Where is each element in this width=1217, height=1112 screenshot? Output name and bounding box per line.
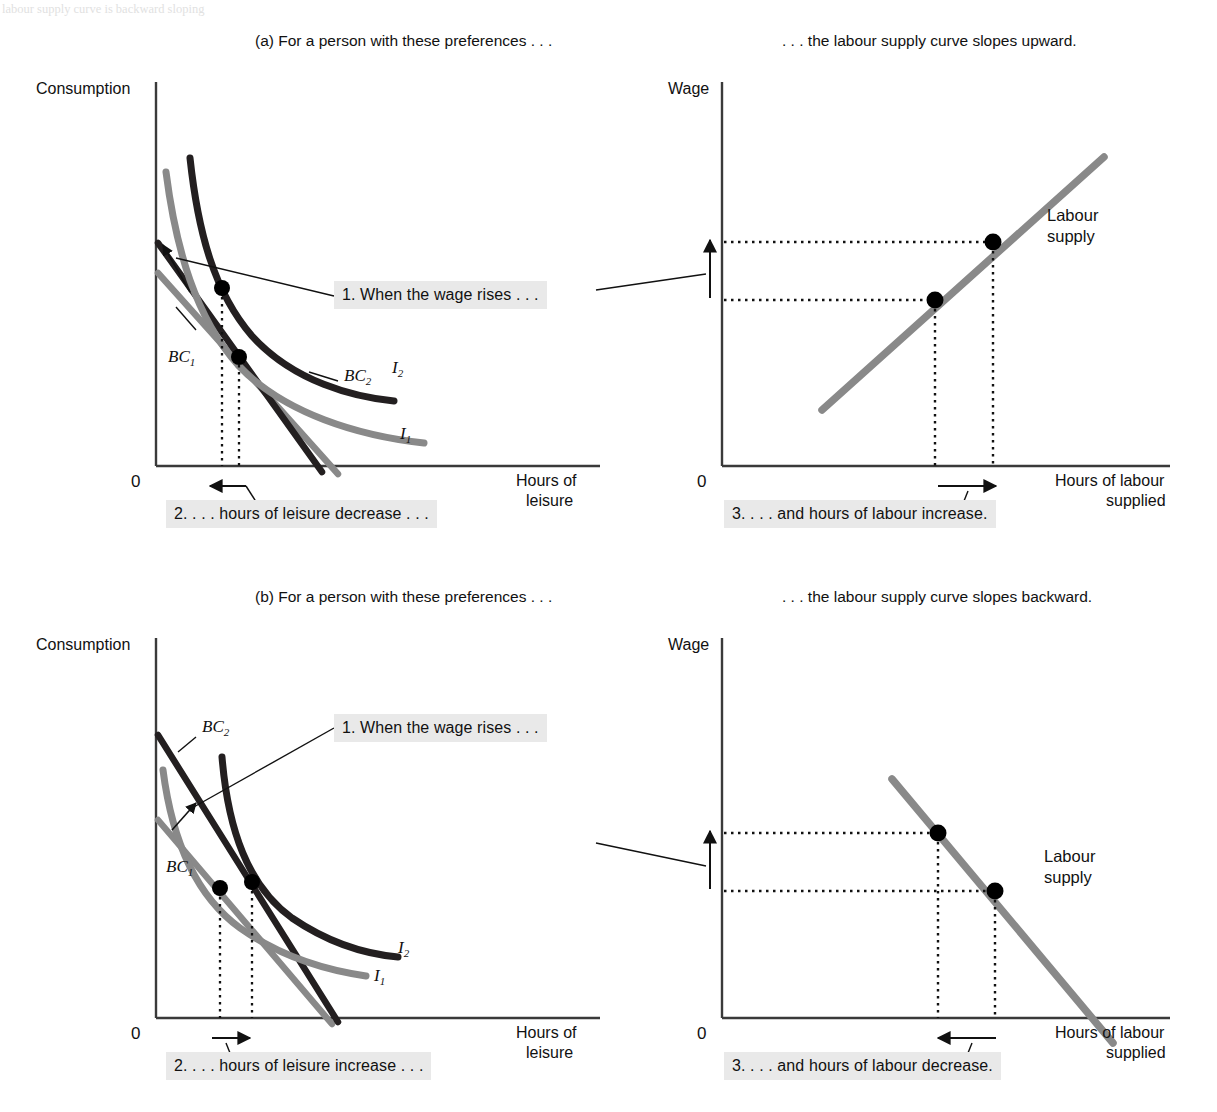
panel-b-bc1-label: BC1 bbox=[166, 857, 193, 879]
i2-subscript: 2 bbox=[398, 367, 404, 379]
panel-a-right-x-axis-label-line1: Hours of labour bbox=[1055, 472, 1164, 490]
bc2-text: BC bbox=[202, 717, 224, 736]
callout-1-right-leader-line bbox=[596, 274, 706, 290]
optimum-point-new bbox=[244, 874, 260, 890]
panel-a-right-y-axis-label: Wage bbox=[668, 80, 709, 98]
panel-a-left-x-axis-label-line2: leisure bbox=[526, 492, 573, 510]
panel-a-right-chart bbox=[596, 82, 1170, 511]
panel-a-callout-1: 1. When the wage rises . . . bbox=[334, 281, 547, 309]
panel-b-callout-1: 1. When the wage rises . . . bbox=[334, 714, 547, 742]
panel-a-right-x-axis-label-line2: supplied bbox=[1106, 492, 1166, 510]
panel-a-right-origin-label: 0 bbox=[697, 472, 706, 492]
panel-b-left-x-axis-label-line1: Hours of bbox=[516, 1024, 576, 1042]
panel-a-i1-label: I1 bbox=[400, 424, 411, 446]
panel-b-right-y-axis-label: Wage bbox=[668, 636, 709, 654]
panel-b-left-y-axis-label: Consumption bbox=[36, 636, 130, 654]
panel-b-bc2-label: BC2 bbox=[202, 717, 229, 739]
panel-a-i2-label: I2 bbox=[392, 358, 403, 380]
bc1-text: BC bbox=[168, 347, 190, 366]
bc2-text: BC bbox=[344, 366, 366, 385]
panel-b-labour-supply-label-line2: supply bbox=[1044, 867, 1092, 888]
panel-a-bc2-label: BC2 bbox=[344, 366, 371, 388]
i1-subscript: 1 bbox=[406, 433, 412, 445]
panel-b-callout-2: 2. . . . hours of leisure increase . . . bbox=[166, 1052, 431, 1080]
figure-canvas: labour supply curve is backward sloping bbox=[0, 0, 1217, 1112]
panel-b-callout-3: 3. . . . and hours of labour decrease. bbox=[724, 1052, 1001, 1080]
panel-b-left-chart bbox=[156, 638, 600, 1063]
indifference-curve-2 bbox=[190, 158, 394, 401]
panel-b-right-x-axis-label-line1: Hours of labour bbox=[1055, 1024, 1164, 1042]
i1-subscript: 1 bbox=[380, 975, 386, 987]
labour-supply-curve bbox=[892, 779, 1113, 1043]
bc2-subscript: 2 bbox=[366, 375, 372, 387]
panel-a-left-x-axis-label-line1: Hours of bbox=[516, 472, 576, 490]
bc1-text: BC bbox=[166, 857, 188, 876]
panel-b-right-x-axis-label-line2: supplied bbox=[1106, 1044, 1166, 1062]
panel-a-left-origin-label: 0 bbox=[131, 472, 140, 492]
supply-point-high-wage bbox=[930, 825, 947, 842]
optimum-point-initial bbox=[212, 880, 228, 896]
graphics-layer bbox=[0, 0, 1217, 1112]
panel-b-i1-label: I1 bbox=[374, 966, 385, 988]
i2-subscript: 2 bbox=[404, 947, 410, 959]
labour-supply-curve bbox=[822, 157, 1104, 410]
panel-a-left-y-axis-label: Consumption bbox=[36, 80, 130, 98]
supply-point-low bbox=[927, 292, 944, 309]
bc2-subscript: 2 bbox=[224, 726, 230, 738]
bc2-leader-line bbox=[178, 737, 196, 752]
panel-b-right-origin-label: 0 bbox=[697, 1024, 706, 1044]
panel-a-bc1-label: BC1 bbox=[168, 347, 195, 369]
callout-1-right-leader-line bbox=[596, 843, 706, 866]
supply-point-high bbox=[985, 234, 1002, 251]
panel-b-i2-label: I2 bbox=[398, 938, 409, 960]
panel-a-callout-2: 2. . . . hours of leisure decrease . . . bbox=[166, 500, 437, 528]
optimum-point-new bbox=[214, 280, 230, 296]
panel-b-left-origin-label: 0 bbox=[131, 1024, 140, 1044]
callout-1-leader-line bbox=[192, 728, 334, 808]
panel-a-caption-right: . . . the labour supply curve slopes upw… bbox=[782, 32, 1077, 50]
panel-b-caption-right: . . . the labour supply curve slopes bac… bbox=[782, 588, 1092, 606]
callout-1-leader-line bbox=[176, 258, 334, 296]
panel-b-caption-left: (b) For a person with these preferences … bbox=[255, 588, 552, 606]
bc1-subscript: 1 bbox=[190, 356, 196, 368]
panel-b-labour-supply-label-line1: Labour bbox=[1044, 846, 1095, 867]
panel-a-labour-supply-label-line1: Labour bbox=[1047, 205, 1098, 226]
optimum-point-initial bbox=[231, 349, 247, 365]
bc1-subscript: 1 bbox=[188, 866, 194, 878]
supply-point-low-wage bbox=[987, 883, 1004, 900]
panel-b-left-x-axis-label-line2: leisure bbox=[526, 1044, 573, 1062]
panel-a-labour-supply-label-line2: supply bbox=[1047, 226, 1095, 247]
panel-a-callout-3: 3. . . . and hours of labour increase. bbox=[724, 500, 996, 528]
panel-a-caption-left: (a) For a person with these preferences … bbox=[255, 32, 552, 50]
